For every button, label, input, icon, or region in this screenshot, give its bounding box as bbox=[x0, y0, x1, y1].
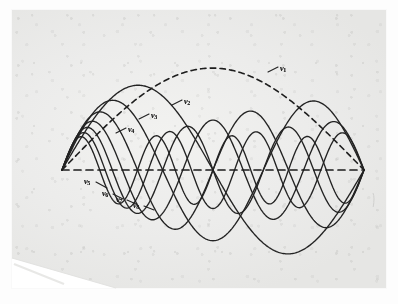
mode-label-n5: ν5 bbox=[84, 178, 90, 186]
mode-label-n6: ν6 bbox=[102, 190, 108, 198]
mode-label-n1: ν1 bbox=[280, 65, 286, 73]
mode-label-n8: ν8 bbox=[133, 202, 139, 210]
mode-label-n4: ν4 bbox=[128, 126, 134, 134]
leader-line-n1 bbox=[268, 67, 278, 72]
wave-curves-group bbox=[62, 68, 364, 254]
photo-paper-background: ν1ν2ν3ν4ν5ν6ν7ν8 bbox=[12, 10, 386, 288]
mode-label-n7: ν7 bbox=[116, 196, 122, 204]
wave-curve-n1 bbox=[62, 68, 364, 170]
leader-line-n2 bbox=[172, 100, 182, 105]
scanned-figure-page: ν1ν2ν3ν4ν5ν6ν7ν8 bbox=[0, 0, 398, 304]
mode-label-n2: ν2 bbox=[184, 98, 190, 106]
mode-label-n3: ν3 bbox=[151, 112, 157, 120]
leader-line-n3 bbox=[139, 114, 149, 119]
harmonic-modes-plot bbox=[12, 10, 386, 288]
